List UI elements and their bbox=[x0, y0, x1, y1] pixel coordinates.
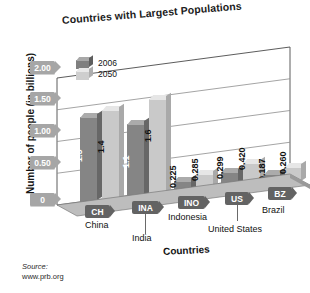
x-tab-ino: INO bbox=[178, 196, 205, 209]
legend-swatch-2050 bbox=[76, 68, 93, 80]
x-axis-title: Countries bbox=[163, 244, 210, 257]
y-tick-label: 1.50 bbox=[34, 94, 51, 104]
x-label-united-states: United States bbox=[208, 224, 262, 234]
y-tick-label: 2.00 bbox=[34, 63, 51, 73]
x-label-brazil: Brazil bbox=[262, 205, 285, 215]
x-label-india: India bbox=[132, 233, 152, 243]
y-tick-0: 0 bbox=[30, 193, 55, 206]
legend-label-2050: 2050 bbox=[98, 69, 117, 79]
y-tick-1-50: 1.50 bbox=[30, 92, 55, 105]
x-tab-ina: INA bbox=[132, 201, 159, 214]
bar-label-china-2050: 1.4 bbox=[96, 140, 106, 153]
x-label-indonesia: Indonesia bbox=[168, 212, 207, 222]
bar-label-united-states-2050: 0.420 bbox=[237, 147, 247, 170]
source-url: www.prb.org bbox=[22, 272, 64, 282]
leader-line-united-states bbox=[237, 205, 238, 221]
x-tab-us: US bbox=[225, 192, 249, 205]
y-tick-label: 0 bbox=[40, 195, 45, 205]
x-tab-bz: BZ bbox=[268, 187, 292, 200]
bar-label-china-2006: 1.3 bbox=[74, 149, 84, 162]
y-tick-2-00: 2.00 bbox=[30, 61, 55, 74]
source-label: Source: bbox=[22, 262, 64, 272]
x-label-china: China bbox=[85, 220, 109, 230]
source-note: Source: www.prb.org bbox=[22, 262, 64, 282]
bar-label-india-2006: 1.1 bbox=[121, 155, 131, 168]
y-tick-label: 0.50 bbox=[34, 158, 51, 168]
bar-label-brazil-2050: 0.260 bbox=[278, 151, 288, 174]
leader-line-india bbox=[145, 214, 146, 234]
x-tab-ch: CH bbox=[85, 205, 110, 218]
y-tick-1-00: 1.00 bbox=[30, 124, 55, 137]
y-tick-0-50: 0.50 bbox=[30, 156, 55, 169]
chart-title: Countries with Largest Populations bbox=[62, 0, 243, 26]
bar-label-india-2050: 1.6 bbox=[143, 129, 153, 142]
legend-label-2006: 2006 bbox=[98, 58, 117, 68]
y-tick-label: 1.00 bbox=[34, 126, 51, 136]
population-bar-chart: Countries with Largest Populations Numbe… bbox=[0, 0, 310, 293]
